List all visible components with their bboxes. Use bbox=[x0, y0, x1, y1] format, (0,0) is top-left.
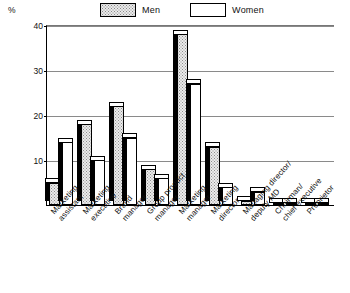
x-axis-line bbox=[46, 205, 334, 206]
bar-face bbox=[126, 138, 137, 206]
bar-group bbox=[47, 26, 79, 205]
bar-top bbox=[173, 30, 188, 35]
bar-top bbox=[77, 120, 92, 125]
y-tick-label-10: 10 bbox=[34, 156, 43, 166]
bar-women bbox=[94, 160, 105, 205]
bar-group bbox=[143, 26, 175, 205]
bar-face bbox=[190, 84, 201, 206]
y-tick-label-30: 30 bbox=[34, 66, 43, 76]
legend-swatch-women-icon bbox=[190, 3, 226, 17]
y-tick-label-20: 20 bbox=[34, 111, 43, 121]
bar-top bbox=[141, 165, 156, 170]
bar-top bbox=[154, 174, 169, 179]
bar-women bbox=[254, 192, 265, 206]
bar-women bbox=[158, 178, 169, 205]
legend-entry-women: Women bbox=[190, 3, 264, 17]
bar-group bbox=[79, 26, 111, 205]
y-tick-label-40: 40 bbox=[34, 21, 43, 31]
bar-women bbox=[222, 187, 233, 205]
bar-top bbox=[205, 142, 220, 147]
bar-chart: Men Women % 10203040 Marketing assistant… bbox=[0, 0, 350, 293]
bar-top bbox=[186, 79, 201, 84]
bar-top bbox=[250, 187, 265, 192]
legend-label-men: Men bbox=[142, 5, 160, 15]
bar-top bbox=[218, 183, 233, 188]
bar-top bbox=[122, 133, 137, 138]
bar-face bbox=[62, 142, 73, 205]
bar-top bbox=[58, 138, 73, 143]
bar-top bbox=[314, 198, 329, 203]
bars-layer bbox=[47, 26, 334, 205]
legend-label-women: Women bbox=[232, 5, 264, 15]
bar-face bbox=[254, 192, 265, 206]
bar-top bbox=[90, 156, 105, 161]
legend-swatch-men-icon bbox=[100, 3, 136, 17]
bar-group bbox=[207, 26, 239, 205]
bar-face bbox=[94, 160, 105, 205]
y-axis-unit-label: % bbox=[8, 5, 16, 15]
bar-group bbox=[239, 26, 271, 205]
chart-legend: Men Women bbox=[100, 3, 264, 17]
bar-group bbox=[303, 26, 335, 205]
legend-entry-men: Men bbox=[100, 3, 160, 17]
bar-top bbox=[109, 102, 124, 107]
bar-group bbox=[111, 26, 143, 205]
bar-face bbox=[222, 187, 233, 205]
bar-group bbox=[271, 26, 303, 205]
bar-top bbox=[282, 198, 297, 203]
plot-area: 10203040 bbox=[46, 25, 334, 205]
bar-women bbox=[126, 138, 137, 206]
bar-face bbox=[158, 178, 169, 205]
bar-group bbox=[175, 26, 207, 205]
bar-women bbox=[62, 142, 73, 205]
bar-women bbox=[190, 84, 201, 206]
